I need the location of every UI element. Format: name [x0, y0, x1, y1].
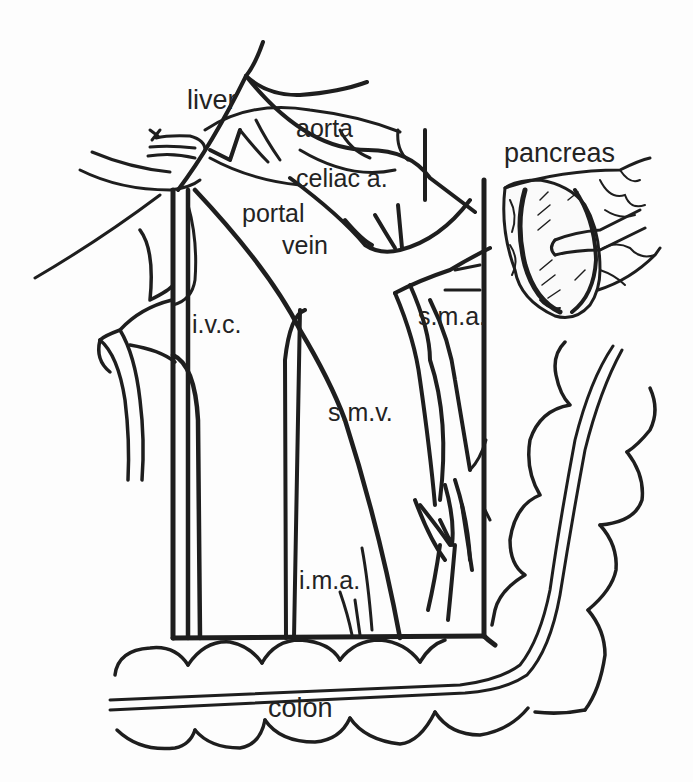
label-ivc: i.v.c. [192, 312, 242, 337]
label-portal: portal [242, 201, 305, 226]
diagram-page: liver aorta pancreas celiac a. portal ve… [0, 0, 693, 782]
label-ima: i.m.a. [299, 568, 360, 593]
ascending-colon-outline [492, 342, 655, 713]
label-pancreas: pancreas [504, 140, 615, 167]
label-colon: colon [268, 695, 333, 722]
label-liver: liver [187, 87, 237, 114]
pancreas-organ [504, 158, 660, 318]
ivc-vessel [173, 190, 200, 638]
portal-vein [195, 130, 470, 638]
label-celiac-artery: celiac a. [296, 166, 388, 191]
label-sma: s.m.a. [418, 304, 486, 329]
label-vein: vein [282, 233, 328, 258]
left-exterior-vessels [99, 230, 175, 480]
label-aorta: aorta [296, 116, 353, 141]
label-smv: s.m.v. [328, 400, 393, 425]
